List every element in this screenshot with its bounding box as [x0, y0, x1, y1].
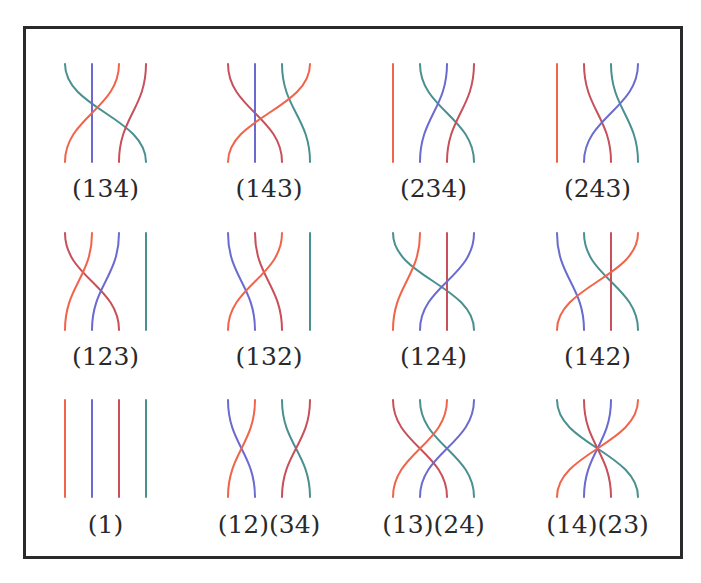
braid-diagram	[0, 0, 701, 583]
strand-teal	[65, 64, 146, 162]
strand-orange	[228, 233, 282, 330]
strand-teal	[420, 64, 474, 162]
braid-label-123: (123)	[36, 342, 176, 372]
braid-label-243: (243)	[528, 174, 668, 204]
braid-label-124: (124)	[364, 342, 504, 372]
strand-crimson	[255, 233, 282, 330]
braid-label-14-23: (14)(23)	[528, 510, 668, 540]
strand-teal	[393, 233, 474, 330]
braid	[65, 400, 146, 497]
braid-label-134: (134)	[36, 174, 176, 204]
strand-crimson	[65, 233, 119, 330]
braid	[393, 400, 474, 497]
braid-label-143: (143)	[199, 174, 339, 204]
strand-orange	[228, 400, 255, 497]
braid-label-142: (142)	[528, 342, 668, 372]
strand-crimson	[282, 400, 310, 497]
braid-label-132: (132)	[199, 342, 339, 372]
braid	[557, 400, 638, 497]
braid	[65, 233, 146, 330]
strand-crimson	[447, 64, 474, 162]
braid	[557, 64, 638, 162]
strand-orange	[393, 400, 447, 497]
braid	[393, 64, 474, 162]
braid	[228, 233, 310, 330]
strand-blue	[92, 233, 119, 330]
strand-blue	[420, 64, 447, 162]
strand-orange	[557, 233, 638, 330]
strand-blue	[584, 64, 638, 162]
strand-blue	[228, 233, 255, 330]
strand-crimson	[584, 64, 611, 162]
strand-orange	[65, 233, 92, 330]
braid-label-identity: (1)	[36, 510, 176, 540]
braid	[557, 233, 638, 330]
braid	[228, 64, 310, 162]
strand-orange	[557, 400, 638, 497]
braid	[228, 400, 310, 497]
braid-label-12-34: (12)(34)	[199, 510, 339, 540]
strand-blue	[420, 400, 474, 497]
braid-label-234: (234)	[364, 174, 504, 204]
strand-orange	[228, 64, 310, 162]
braid	[65, 64, 146, 162]
braid-label-13-24: (13)(24)	[364, 510, 504, 540]
strand-teal	[611, 64, 638, 162]
braid	[393, 233, 474, 330]
